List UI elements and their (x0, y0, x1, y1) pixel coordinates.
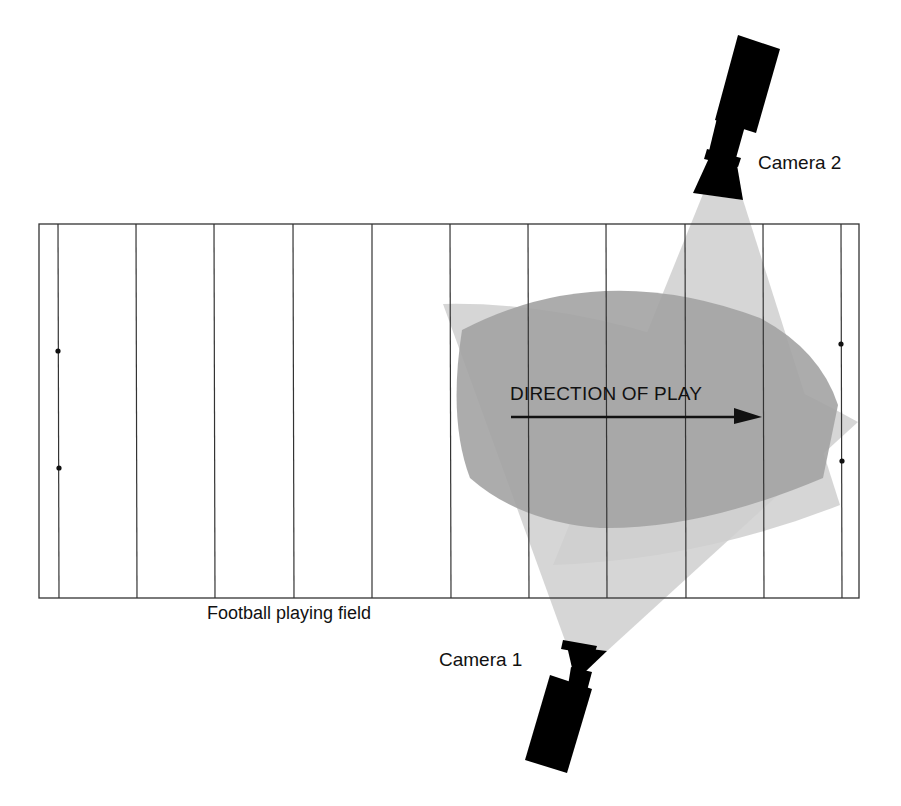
camera-2-label: Camera 2 (758, 152, 841, 174)
camera-coverage-diagram (0, 0, 901, 806)
diagram-canvas: Camera 2 Camera 1 Football playing field… (0, 0, 901, 806)
direction-of-play-label: DIRECTION OF PLAY (510, 383, 702, 405)
camera-1-label: Camera 1 (439, 649, 522, 671)
field-label: Football playing field (207, 603, 371, 624)
camera-2-icon (693, 35, 780, 200)
camera-1-icon (525, 640, 607, 773)
